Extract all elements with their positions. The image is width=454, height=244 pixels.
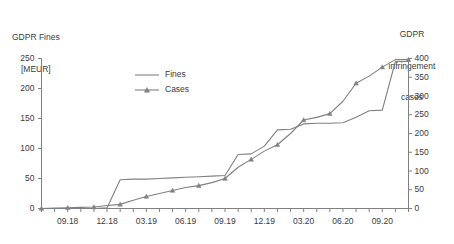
series-line-cases: [42, 60, 409, 209]
series-marker-cases: [354, 81, 359, 85]
series-line-fines: [42, 62, 409, 209]
legend-label-cases: Cases: [165, 84, 189, 94]
series-marker-cases: [249, 157, 254, 161]
gdpr-fines-and-cases-chart: GDPR Fines [MEUR] GDPR infringement case…: [0, 0, 454, 244]
plot-area: [0, 0, 454, 244]
series-marker-cases: [380, 65, 385, 69]
legend-label-fines: Fines: [165, 69, 186, 79]
